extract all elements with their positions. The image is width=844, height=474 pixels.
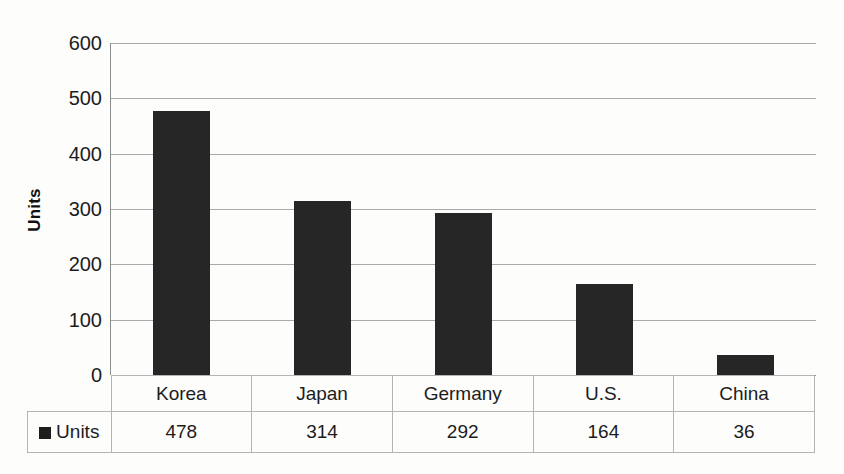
table-row-values: Units 47831429216436 [28, 412, 815, 453]
bar-germany [435, 213, 492, 375]
y-tick-label-200: 200 [42, 254, 102, 274]
table-value-korea: 478 [111, 412, 252, 453]
y-tick-label-100: 100 [42, 310, 102, 330]
bar-u-s [576, 284, 633, 375]
data-table-grid: KoreaJapanGermanyU.S.China Units 4783142… [27, 375, 815, 453]
table-header-u-s: U.S. [533, 376, 674, 412]
bar-chart: Units 0100200300400500600 KoreaJapanGerm… [0, 0, 844, 474]
table-value-u-s: 164 [533, 412, 674, 453]
table-header-japan: Japan [252, 376, 393, 412]
bar-japan [294, 201, 351, 375]
table-header-china: China [674, 376, 815, 412]
data-table: KoreaJapanGermanyU.S.China Units 4783142… [27, 375, 815, 450]
legend-swatch-icon [39, 427, 51, 439]
y-tick-label-600: 600 [42, 33, 102, 53]
bar-korea [153, 111, 210, 375]
table-value-china: 36 [674, 412, 815, 453]
table-header-germany: Germany [392, 376, 533, 412]
y-tick-label-300: 300 [42, 199, 102, 219]
legend-label: Units [56, 421, 99, 442]
table-value-japan: 314 [252, 412, 393, 453]
bars-layer [111, 43, 816, 375]
y-tick-label-500: 500 [42, 88, 102, 108]
table-row-categories: KoreaJapanGermanyU.S.China [28, 376, 815, 412]
table-value-germany: 292 [392, 412, 533, 453]
legend-cell-spacer [28, 376, 112, 412]
bar-china [717, 355, 774, 375]
plot-area [110, 43, 815, 375]
table-header-korea: Korea [111, 376, 252, 412]
y-tick-label-400: 400 [42, 144, 102, 164]
legend-cell: Units [28, 412, 112, 453]
